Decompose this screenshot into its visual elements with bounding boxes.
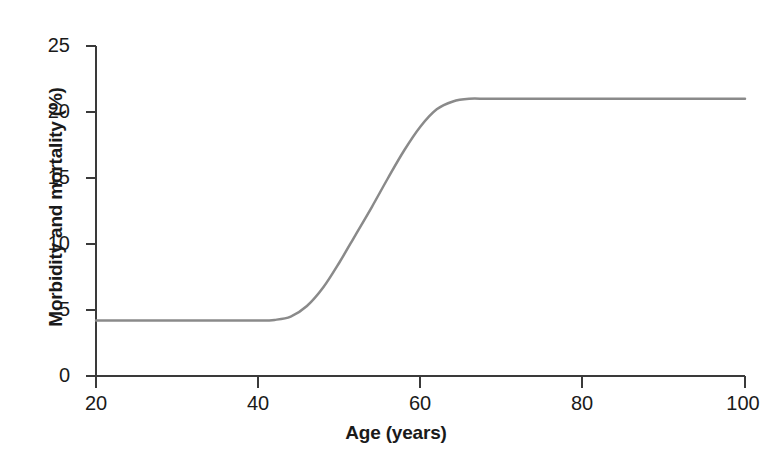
x-axis-title: Age (years) xyxy=(246,422,546,444)
x-axis-ticks xyxy=(96,376,745,388)
x-tick-label-100: 100 xyxy=(713,392,773,415)
y-tick-label-20: 20 xyxy=(24,100,70,123)
y-axis-ticks xyxy=(86,46,96,376)
x-tick-label-60: 60 xyxy=(390,392,450,415)
y-tick-label-0: 0 xyxy=(24,364,70,387)
x-tick-label-40: 40 xyxy=(228,392,288,415)
x-tick-label-80: 80 xyxy=(552,392,612,415)
y-tick-label-15: 15 xyxy=(24,166,70,189)
y-tick-label-5: 5 xyxy=(24,298,70,321)
sigmoid-curve xyxy=(96,99,745,321)
chart-figure: Morbidity and mortality (%) Age (years) … xyxy=(0,0,775,462)
x-tick-label-20: 20 xyxy=(66,392,126,415)
y-tick-label-10: 10 xyxy=(24,232,70,255)
y-tick-label-25: 25 xyxy=(24,34,70,57)
